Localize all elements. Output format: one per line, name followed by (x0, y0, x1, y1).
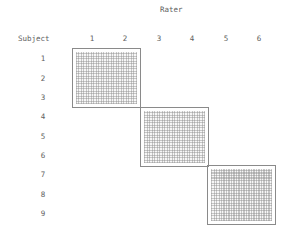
block-raters-3-4-subjects-4-6 (140, 107, 209, 167)
subject-label-8: 8 (41, 190, 46, 199)
subject-axis-title: Subject (18, 34, 50, 43)
subject-label-3: 3 (41, 93, 46, 102)
hatch-fill (76, 52, 137, 104)
subject-label-7: 7 (41, 170, 46, 179)
block-raters-1-2-subjects-1-3 (72, 48, 141, 108)
rater-label-6: 6 (257, 34, 262, 43)
subject-label-1: 1 (41, 54, 46, 63)
subject-label-2: 2 (41, 74, 46, 83)
block-raters-5-6-subjects-7-9 (207, 165, 276, 225)
rater-label-4: 4 (190, 34, 195, 43)
subject-label-6: 6 (41, 151, 46, 160)
rater-axis-title: Rater (160, 5, 183, 14)
rater-label-3: 3 (157, 34, 162, 43)
rater-label-5: 5 (224, 34, 229, 43)
hatch-fill (211, 169, 272, 221)
hatch-fill (144, 111, 205, 163)
subject-label-5: 5 (41, 132, 46, 141)
rater-label-2: 2 (123, 34, 128, 43)
rater-label-1: 1 (90, 34, 95, 43)
subject-label-9: 9 (41, 209, 46, 218)
subject-label-4: 4 (41, 112, 46, 121)
